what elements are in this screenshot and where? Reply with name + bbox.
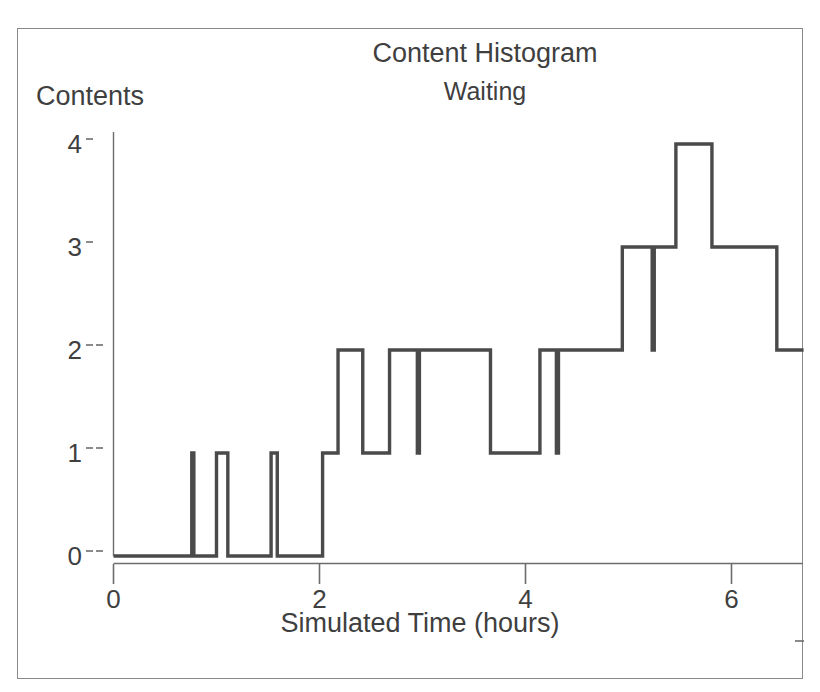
y-tick-label: 0	[68, 541, 82, 571]
y-tick-label: 1	[68, 438, 82, 468]
y-tick-label: 3	[68, 232, 82, 262]
y-tick-label: 2	[68, 335, 82, 365]
x-tick-label: 6	[724, 584, 738, 614]
y-tick-label: 4	[68, 129, 82, 159]
y-tick-group: 01234	[68, 129, 103, 571]
y-axis-label: Contents	[36, 81, 144, 111]
x-tick-label: 4	[518, 584, 532, 614]
screenshot-page: Content Histogram Waiting Contents Simul…	[0, 0, 820, 692]
x-tick-group: 0246	[106, 564, 738, 614]
chart-subtitle: Waiting	[444, 77, 526, 105]
series-waiting-step-line	[114, 144, 804, 556]
x-tick-label: 2	[312, 584, 326, 614]
chart-title: Content Histogram	[372, 38, 597, 68]
content-histogram-chart: Content Histogram Waiting Contents Simul…	[0, 0, 820, 692]
x-tick-label: 0	[106, 584, 120, 614]
